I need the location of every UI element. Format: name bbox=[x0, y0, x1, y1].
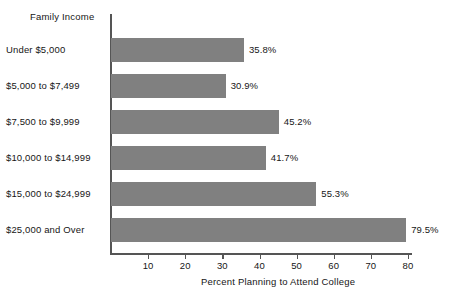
bar-value-label: 41.7% bbox=[271, 146, 298, 170]
x-axis-tick bbox=[371, 254, 372, 259]
category-label-group: Under $5,000 $5,000 to $7,499 $7,500 to … bbox=[8, 0, 106, 293]
bar[interactable] bbox=[111, 218, 406, 242]
bar-value-label: 55.3% bbox=[321, 182, 348, 206]
x-axis-tick bbox=[185, 254, 186, 259]
x-axis-line bbox=[110, 253, 412, 255]
bar[interactable] bbox=[111, 146, 266, 170]
x-axis-tick-label: 40 bbox=[254, 260, 265, 271]
x-axis-tick bbox=[148, 254, 149, 259]
x-axis-tick-label: 20 bbox=[180, 260, 191, 271]
x-axis-tick-label: 50 bbox=[291, 260, 302, 271]
x-axis-tick bbox=[408, 254, 409, 259]
category-label: $10,000 to $14,999 bbox=[6, 152, 106, 164]
x-axis-tick bbox=[260, 254, 261, 259]
category-label: $25,000 and Over bbox=[6, 224, 106, 236]
x-axis-tick-label: 80 bbox=[403, 260, 414, 271]
bar[interactable] bbox=[111, 38, 244, 62]
x-axis-title: Percent Planning to Attend College bbox=[201, 276, 355, 287]
bar[interactable] bbox=[111, 110, 279, 134]
x-axis-tick-label: 30 bbox=[217, 260, 228, 271]
bar[interactable] bbox=[111, 182, 316, 206]
category-label: $15,000 to $24,999 bbox=[6, 188, 106, 200]
x-axis-tick bbox=[297, 254, 298, 259]
x-axis-tick bbox=[334, 254, 335, 259]
category-label: $7,500 to $9,999 bbox=[6, 116, 106, 128]
x-axis-tick bbox=[222, 254, 223, 259]
x-axis-tick-label: 10 bbox=[143, 260, 154, 271]
bar-value-label: 35.8% bbox=[249, 38, 276, 62]
bar-chart: Family Income Under $5,000 $5,000 to $7,… bbox=[0, 0, 458, 293]
plot-area: 35.8% 30.9% 45.2% 41.7% 55.3% 79.5% 1020… bbox=[110, 14, 420, 254]
bar-value-label: 30.9% bbox=[231, 74, 258, 98]
x-axis-tick-label: 60 bbox=[328, 260, 339, 271]
x-axis-tick-label: 70 bbox=[365, 260, 376, 271]
bar-value-label: 79.5% bbox=[411, 218, 438, 242]
bar[interactable] bbox=[111, 74, 226, 98]
category-label: $5,000 to $7,499 bbox=[6, 80, 106, 92]
category-label: Under $5,000 bbox=[6, 44, 106, 56]
bar-value-label: 45.2% bbox=[284, 110, 311, 134]
